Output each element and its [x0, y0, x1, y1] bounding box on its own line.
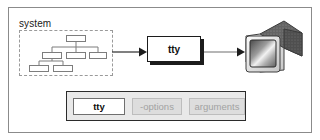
- hierarchy-tree-icon: [19, 30, 113, 76]
- crt-monitor-icon: [240, 18, 304, 78]
- figure-root: system: [0, 0, 320, 140]
- tty-process-label: tty: [168, 44, 180, 55]
- arrow-right-icon: [112, 45, 148, 59]
- system-group-label: system: [19, 18, 51, 29]
- syntax-token-options: -options: [132, 98, 182, 115]
- tty-process-box: tty: [147, 36, 201, 62]
- syntax-token-command: tty: [73, 98, 125, 115]
- syntax-bar: tty -options arguments: [66, 91, 246, 121]
- syntax-token-arguments: arguments: [189, 98, 245, 115]
